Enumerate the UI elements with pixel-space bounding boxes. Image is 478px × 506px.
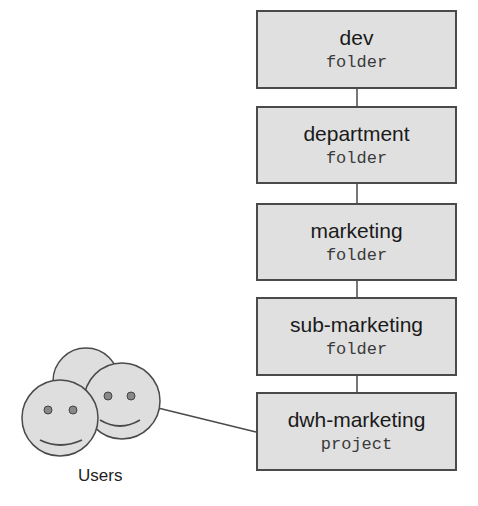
node-type: folder (258, 339, 455, 361)
node-type: folder (258, 245, 455, 267)
node-department: department folder (256, 106, 457, 184)
node-type: folder (258, 148, 455, 170)
node-name: sub-marketing (258, 313, 455, 337)
node-name: marketing (258, 219, 455, 243)
node-dwh-marketing: dwh-marketing project (256, 392, 457, 471)
node-name: department (258, 122, 455, 146)
users-label: Users (78, 466, 122, 486)
user-face-front (22, 380, 98, 456)
node-name: dwh-marketing (258, 408, 455, 432)
users-group-icon (22, 348, 160, 456)
node-type: folder (258, 52, 455, 74)
node-name: dev (258, 26, 455, 50)
node-marketing: marketing folder (256, 203, 457, 281)
node-type: project (258, 434, 455, 456)
node-sub-marketing: sub-marketing folder (256, 297, 457, 376)
node-dev: dev folder (256, 10, 457, 89)
connector-users-dwh-marketing (158, 408, 256, 432)
